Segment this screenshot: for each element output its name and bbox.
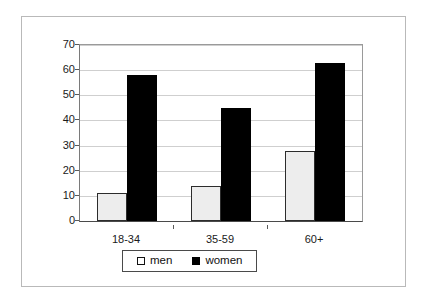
plot-area	[79, 44, 363, 222]
legend-label: men	[150, 255, 172, 267]
x-axis: 18-3435-5960+	[79, 225, 361, 245]
bar-men-35-59	[191, 186, 221, 221]
legend-entry-men[interactable]: men	[137, 255, 172, 267]
y-axis-tick-label: 60	[45, 64, 75, 75]
legend-entry-women[interactable]: women	[192, 255, 242, 267]
filled-square-swatch	[192, 257, 200, 265]
gridline	[80, 45, 362, 46]
y-axis-tick-label: 70	[45, 39, 75, 50]
x-axis-tick-mark	[173, 225, 174, 229]
open-square-swatch	[137, 257, 145, 265]
chart-figure: 010203040506070 18-3435-5960+ menwomen	[21, 16, 406, 287]
bar-men-18-34	[97, 193, 127, 221]
bar-women-35-59	[221, 108, 251, 221]
x-axis-tick-mark	[267, 225, 268, 229]
y-axis-tick-label: 40	[45, 114, 75, 125]
x-axis-tick-label: 35-59	[206, 233, 234, 245]
bar-men-60+	[285, 151, 315, 221]
bar-women-60+	[315, 63, 345, 221]
y-axis-tick-label: 30	[45, 139, 75, 150]
x-axis-tick-label: 18-34	[112, 233, 140, 245]
y-axis-tick-label: 10	[45, 189, 75, 200]
y-axis-tick-label: 50	[45, 89, 75, 100]
legend-label: women	[205, 255, 242, 267]
x-axis-tick-label: 60+	[305, 233, 324, 245]
chart-legend: menwomen	[122, 250, 257, 272]
y-axis-tick-label: 20	[45, 164, 75, 175]
y-axis: 010203040506070	[42, 44, 75, 220]
y-axis-tick-label: 0	[45, 215, 75, 226]
bar-women-18-34	[127, 75, 157, 221]
